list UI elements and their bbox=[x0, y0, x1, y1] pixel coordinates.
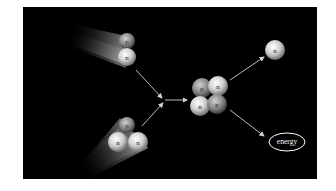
neutron-particle: n bbox=[108, 132, 128, 152]
deuterium-nucleus: p n bbox=[70, 24, 136, 68]
arrow-neutron-out bbox=[230, 57, 264, 80]
neutron-label: n bbox=[116, 139, 120, 147]
neutron-particle: n bbox=[190, 96, 210, 116]
energy-label: energy bbox=[277, 137, 298, 146]
neutron-particle: n bbox=[118, 48, 136, 66]
proton-label: p bbox=[125, 122, 129, 130]
proton-particle: p bbox=[119, 33, 135, 49]
arrow-energy-out bbox=[230, 110, 264, 136]
energy-output: energy bbox=[269, 133, 305, 151]
neutron-label: n bbox=[136, 139, 140, 147]
arrow-deuterium-in bbox=[136, 70, 162, 98]
neutron-label: n bbox=[273, 47, 277, 55]
proton-label: p bbox=[125, 38, 129, 46]
tritium-nucleus: p n n bbox=[80, 117, 148, 178]
neutron-label: n bbox=[125, 54, 129, 62]
proton-particle: p bbox=[207, 94, 227, 114]
proton-label: p bbox=[215, 101, 219, 109]
neutron-particle: n bbox=[128, 132, 148, 152]
fusion-diagram: p n p n n p n bbox=[0, 0, 336, 191]
neutron-label: n bbox=[198, 103, 202, 111]
neutron-particle: n bbox=[208, 76, 228, 96]
arrow-tritium-in bbox=[142, 103, 163, 126]
free-neutron: n bbox=[265, 40, 285, 60]
proton-particle: p bbox=[119, 117, 135, 133]
neutron-label: n bbox=[216, 83, 220, 91]
helium-nucleus: p n n p bbox=[190, 76, 228, 116]
proton-label: p bbox=[200, 85, 204, 93]
